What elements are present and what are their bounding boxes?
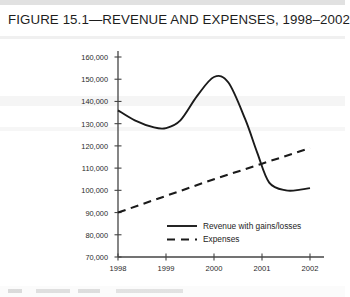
chart-plot	[0, 44, 345, 282]
x-tick-label: 2002	[290, 264, 330, 273]
series-line	[118, 76, 310, 191]
y-tick-label: 150,000	[64, 75, 108, 84]
y-tick-label: 90,000	[64, 209, 108, 218]
legend-label: Revenue with gains/losses	[203, 221, 301, 231]
y-tick-label: 120,000	[64, 142, 108, 151]
y-tick-label: 70,000	[64, 253, 108, 262]
legend-swatches	[167, 226, 197, 240]
y-tick-label: 140,000	[64, 97, 108, 106]
scan-artifact-band	[0, 36, 345, 39]
x-tick-label: 1998	[98, 264, 138, 273]
y-tick-label: 130,000	[64, 120, 108, 129]
chart-container: 160,000150,000140,000130,000120,000110,0…	[0, 44, 345, 282]
y-tick-label: 100,000	[64, 186, 108, 195]
x-tick-label: 2000	[194, 264, 234, 273]
source-note-cropped	[8, 289, 183, 293]
y-tick-label: 80,000	[64, 231, 108, 240]
y-tick-label: 110,000	[64, 164, 108, 173]
legend-label: Expenses	[203, 234, 239, 244]
x-tick-label: 2001	[242, 264, 282, 273]
page-top-edge	[0, 0, 345, 5]
figure-title: FIGURE 15.1—REVENUE AND EXPENSES, 1998–2…	[8, 12, 350, 27]
x-tick-label: 1999	[146, 264, 186, 273]
series-line	[118, 148, 310, 212]
chart-series	[118, 76, 310, 213]
y-tick-label: 160,000	[64, 53, 108, 62]
